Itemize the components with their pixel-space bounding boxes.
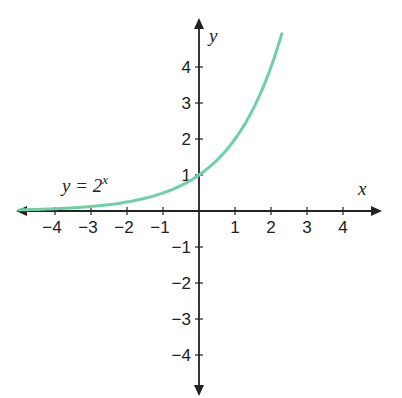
y-tick-label: −3 bbox=[172, 310, 191, 329]
y-axis-arrow-up-icon bbox=[194, 18, 204, 29]
y-axis-label: y bbox=[207, 25, 218, 46]
x-tick-label: 4 bbox=[338, 218, 347, 237]
y-axis bbox=[194, 18, 204, 396]
x-tick-label: −1 bbox=[150, 218, 169, 237]
x-tick-label: −4 bbox=[42, 218, 61, 237]
y-axis-arrow-down-icon bbox=[194, 385, 204, 396]
curve-label: y = 2x bbox=[60, 172, 108, 196]
x-tick-label: −2 bbox=[114, 218, 133, 237]
exponential-curve bbox=[19, 34, 282, 210]
x-tick-label: −3 bbox=[78, 218, 97, 237]
y-tick-label: 3 bbox=[182, 94, 191, 113]
y-tick-label: −1 bbox=[172, 238, 191, 257]
y-tick-label: 4 bbox=[182, 58, 191, 77]
x-tick-label: 1 bbox=[230, 218, 239, 237]
x-axis-label: x bbox=[357, 178, 367, 199]
x-axis-arrow-right-icon bbox=[371, 206, 382, 216]
x-tick-label: 3 bbox=[302, 218, 311, 237]
x-tick-label: 2 bbox=[266, 218, 275, 237]
y-tick-label: −2 bbox=[172, 274, 191, 293]
y-tick-label: −4 bbox=[172, 346, 191, 365]
y-tick-label: 2 bbox=[182, 130, 191, 149]
exponential-graph: −4−3−2−112344321−1−2−3−4 x y y = 2x bbox=[0, 0, 402, 398]
